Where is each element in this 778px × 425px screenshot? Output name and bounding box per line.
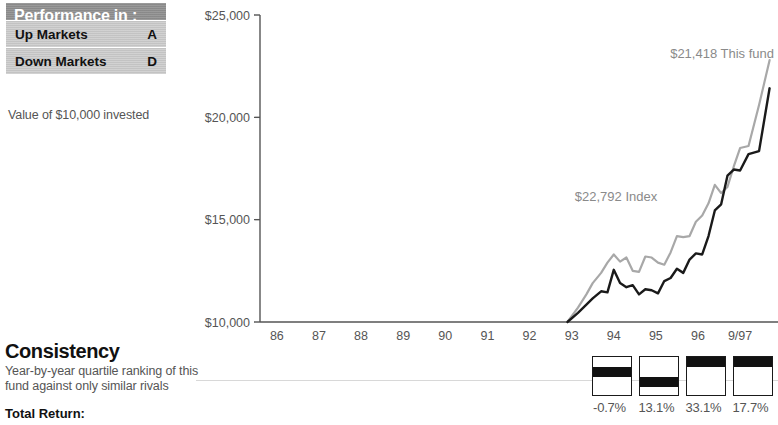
total-return-label: Total Return: <box>5 406 85 421</box>
quartile-return-value: 13.1% <box>633 400 680 420</box>
quartile-band <box>640 377 678 387</box>
y-tick-label: $20,000 <box>205 111 250 125</box>
x-tick-label: 96 <box>691 329 705 343</box>
up-markets-label: Up Markets <box>15 21 139 48</box>
x-axis: 86878889909192939495969/97 <box>260 322 778 343</box>
performance-header: Performance in : <box>6 3 166 21</box>
performance-box: Performance in : Up Markets A Down Marke… <box>6 3 166 75</box>
x-tick-label: 94 <box>607 329 621 343</box>
performance-row-down-markets: Down Markets D <box>6 48 166 75</box>
annotation-this-fund: $21,418 This fund <box>670 46 774 61</box>
quartile-band <box>593 367 631 377</box>
x-tick-label: 9/97 <box>728 329 752 343</box>
quartile-return-value: 33.1% <box>680 400 727 420</box>
x-tick-label: 95 <box>649 329 663 343</box>
quartile-boxes <box>592 356 778 396</box>
x-tick-label: 88 <box>354 329 368 343</box>
y-tick-label: $15,000 <box>205 213 250 227</box>
growth-chart-svg: $25,000$20,000$15,000$10,000 86878889909… <box>196 0 778 350</box>
consistency-description: Year-by-year quartile ranking of this fu… <box>5 364 220 394</box>
growth-chart: $25,000$20,000$15,000$10,000 86878889909… <box>196 0 778 350</box>
x-tick-label: 91 <box>480 329 494 343</box>
consistency-title: Consistency <box>5 340 120 363</box>
y-axis: $25,000$20,000$15,000$10,000 <box>205 9 260 330</box>
down-markets-label: Down Markets <box>15 48 139 75</box>
quartile-box <box>733 356 773 396</box>
up-markets-grade: A <box>139 21 157 48</box>
quartile-box <box>592 356 632 396</box>
quartile-box <box>686 356 726 396</box>
quartile-band <box>687 357 725 367</box>
x-tick-label: 86 <box>270 329 284 343</box>
quartile-return-value: -0.7% <box>586 400 633 420</box>
performance-row-up-markets: Up Markets A <box>6 21 166 48</box>
annotation-index: $22,792 Index <box>575 189 658 204</box>
x-tick-label: 89 <box>396 329 410 343</box>
y-tick-label: $10,000 <box>205 316 250 330</box>
performance-caption: Value of $10,000 invested <box>8 108 149 122</box>
x-tick-label: 87 <box>312 329 326 343</box>
x-tick-label: 90 <box>438 329 452 343</box>
quartile-return-value: 17.7% <box>727 400 774 420</box>
down-markets-grade: D <box>139 48 157 75</box>
chart-annotations: $21,418 This fund$22,792 Index <box>575 46 774 204</box>
series-line-this-fund <box>567 88 769 322</box>
x-tick-label: 92 <box>523 329 537 343</box>
y-tick-label: $25,000 <box>205 9 250 23</box>
quartile-box <box>639 356 679 396</box>
quartile-values: -0.7%13.1%33.1%17.7% <box>586 400 778 420</box>
quartile-band <box>734 357 772 367</box>
x-tick-label: 93 <box>565 329 579 343</box>
